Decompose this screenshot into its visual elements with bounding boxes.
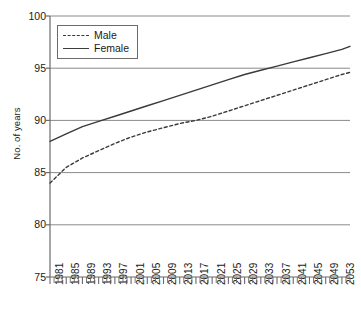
legend-line-sample-female-icon xyxy=(63,44,89,53)
legend-line-sample-male-icon xyxy=(63,31,89,40)
legend-item-male: Male xyxy=(63,29,129,42)
chart-legend: Male Female xyxy=(57,25,138,59)
legend-label-male: Male xyxy=(94,30,117,41)
line-chart: No. of years 7580859095100 1981198519891… xyxy=(0,0,361,323)
legend-item-female: Female xyxy=(63,42,129,55)
legend-label-female: Female xyxy=(94,43,129,54)
data-line-female xyxy=(50,46,350,141)
plot-area xyxy=(0,0,361,323)
